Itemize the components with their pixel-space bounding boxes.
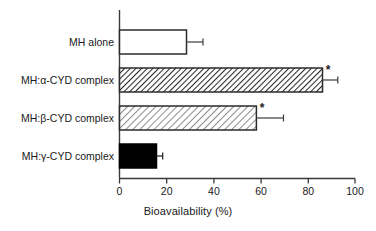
x-tick-label-100: 100: [346, 185, 364, 197]
significance-marker-alpha: *: [326, 64, 331, 76]
x-axis-ticks: [120, 179, 356, 184]
x-tick-label-60: 60: [255, 185, 267, 197]
category-label-mh-alone: MH alone: [0, 36, 114, 48]
x-axis-title: Bioavailability (%): [0, 205, 376, 217]
category-label-mh-beta-cyd: MH:β-CYD complex: [0, 112, 114, 124]
bar-mh-gamma-cyd: [120, 144, 163, 168]
category-label-mh-gamma-cyd: MH:γ-CYD complex: [0, 150, 114, 162]
x-tick-label-80: 80: [302, 185, 314, 197]
x-tick-label-0: 0: [117, 185, 123, 197]
x-tick-label-40: 40: [208, 185, 220, 197]
bioavailability-bar-chart: MH alone MH:α-CYD complex MH:β-CYD compl…: [0, 0, 376, 231]
significance-marker-beta: *: [260, 102, 265, 114]
category-label-mh-alpha-cyd: MH:α-CYD complex: [0, 74, 114, 86]
x-tick-label-20: 20: [161, 185, 173, 197]
bar-mh-alone: [120, 30, 204, 54]
bar-mh-alpha-cyd: [120, 68, 338, 92]
